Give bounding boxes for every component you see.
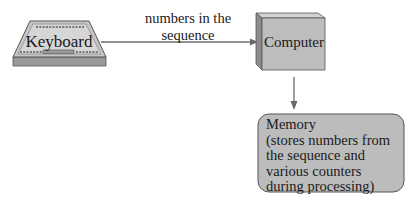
keyboard-base: [13, 57, 106, 66]
arrowhead-icon: [291, 101, 298, 110]
memory-desc-line: during processing): [266, 179, 406, 195]
memory-desc-line: (stores numbers from: [266, 133, 406, 149]
edge-label: numbers in the sequence: [118, 10, 258, 44]
memory-title: Memory: [266, 117, 406, 133]
edge-computer-to-memory: [291, 77, 298, 110]
edge-label-line: numbers in the: [118, 10, 258, 27]
computer-top-face: [256, 13, 325, 18]
computer-label: Computer: [262, 33, 326, 51]
memory-label: Memory (stores numbers from the sequence…: [266, 117, 406, 195]
memory-desc-line: various counters: [266, 164, 406, 180]
keyboard-label: Keyboard: [24, 32, 94, 52]
edge-label-line: sequence: [118, 27, 258, 44]
memory-desc-line: the sequence and: [266, 148, 406, 164]
